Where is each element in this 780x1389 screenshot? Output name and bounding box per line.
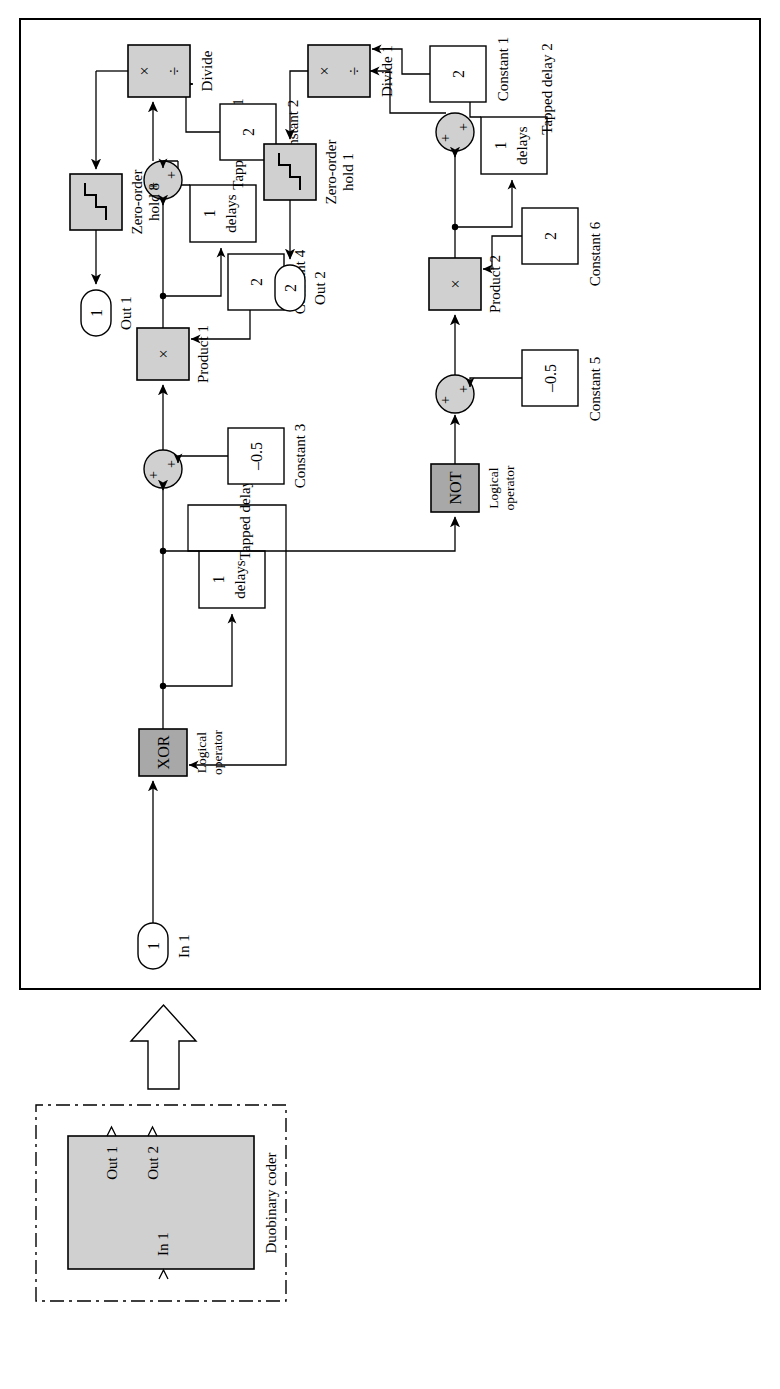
zoh1-caption-line1: Zero-order: [323, 140, 339, 205]
sum-d-sign-2: +: [456, 123, 471, 131]
tapped-delay-1-unit: delays: [223, 194, 239, 232]
tapped-delay-2-count: 1: [492, 142, 509, 150]
not-caption-line1: Logical: [486, 467, 501, 508]
product-2-caption: Product 2: [487, 255, 503, 313]
constant-6-value: 2: [542, 232, 559, 240]
outport-out2-caption: Out 2: [312, 271, 328, 305]
block-divide[interactable]: × ÷ Divide: [128, 45, 215, 97]
divide-glyph-divide: ÷: [166, 66, 183, 75]
divide-caption: Divide: [199, 50, 215, 91]
sum-a-sign-2: +: [164, 460, 179, 468]
block-sum-c[interactable]: + +: [436, 375, 474, 413]
constant-4-value: 2: [248, 278, 265, 286]
product-1-caption: Product 1: [195, 325, 211, 383]
sum-b-sign-2: +: [164, 171, 179, 179]
sum-c-shape: [436, 375, 474, 413]
tapped-delay-2-caption: Tapped delay 2: [539, 43, 555, 134]
tapped-delay-count: 1: [210, 576, 227, 584]
tapped-delay-unit: delays: [232, 560, 248, 598]
not-caption-line2: operator: [502, 465, 517, 510]
sum-a-sign-1: +: [146, 471, 161, 479]
subsystem-in1-label: In 1: [155, 1232, 171, 1256]
outport-out2-number: 2: [282, 284, 299, 292]
tapped-delay-caption: Tapped delay: [237, 479, 253, 560]
block-logical-operator-not[interactable]: NOT Logical operator: [431, 464, 517, 512]
rotated-figure-wrapper: In 1 Out 1 Out 2 Duobinary coder 1 In 1 …: [0, 0, 780, 1389]
outport-out1-caption: Out 1: [118, 296, 134, 330]
outport-out2[interactable]: 2 Out 2: [275, 265, 328, 311]
block-logical-operator-xor[interactable]: XOR Logical operator: [139, 729, 225, 776]
subsystem-out1-label: Out 1: [104, 1146, 120, 1180]
inport-caption: In 1: [176, 934, 192, 958]
block-constant-1[interactable]: 2 Constant 1: [430, 37, 511, 102]
block-product-1[interactable]: × Product 1: [137, 325, 211, 383]
zoh8-caption-line2: hold 8: [146, 183, 162, 221]
sum-a-shape: [144, 450, 182, 488]
sum-d-sign-1: +: [438, 134, 453, 142]
outport-out1-number: 1: [88, 309, 105, 317]
constant-5-caption: Constant 5: [587, 357, 603, 422]
constant-6-caption: Constant 6: [587, 221, 603, 286]
tapped-delay-1-count: 1: [201, 210, 218, 218]
zoh1-caption-line2: hold 1: [340, 153, 356, 191]
sum-c-sign-2: +: [456, 385, 471, 393]
constant-3-value: –0.5: [248, 442, 265, 471]
xor-caption-line2: operator: [210, 730, 225, 775]
zoh8-caption-line1: Zero-order: [129, 170, 145, 235]
block-sum-a[interactable]: + +: [144, 450, 182, 488]
product-1-glyph: ×: [155, 349, 172, 358]
subsystem-out2-label: Out 2: [145, 1146, 161, 1180]
divide-1-glyph-times: ×: [316, 66, 333, 75]
block-diagram-svg: In 1 Out 1 Out 2 Duobinary coder 1 In 1 …: [0, 0, 780, 1389]
divide-glyph-times: ×: [136, 66, 153, 75]
constant-1-caption: Constant 1: [495, 37, 511, 102]
constant-1-value: 2: [450, 70, 467, 78]
sum-c-sign-1: +: [438, 396, 453, 404]
block-constant-3[interactable]: –0.5 Constant 3: [228, 424, 308, 489]
inport-number: 1: [145, 942, 162, 950]
constant-5-value: –0.5: [542, 364, 559, 393]
constant-2-value: 2: [240, 128, 257, 136]
sum-d-shape: [436, 113, 474, 151]
xor-caption-line1: Logical: [194, 732, 209, 773]
block-sum-d[interactable]: + +: [436, 113, 474, 151]
product-2-glyph: ×: [447, 279, 464, 288]
not-label: NOT: [447, 471, 464, 504]
constant-3-caption: Constant 3: [292, 424, 308, 489]
divide-1-glyph-divide: ÷: [346, 66, 363, 75]
figure-canvas: In 1 Out 1 Out 2 Duobinary coder 1 In 1 …: [0, 0, 780, 1389]
tapped-delay-2-unit: delays: [514, 126, 530, 164]
divide-1-caption: Divide 1: [379, 45, 395, 97]
xor-label: XOR: [155, 735, 172, 769]
subsystem-caption: Duobinary coder: [263, 1152, 279, 1253]
block-divide-1[interactable]: × ÷ Divide 1: [308, 45, 395, 97]
outport-out1[interactable]: 1 Out 1: [81, 290, 134, 336]
